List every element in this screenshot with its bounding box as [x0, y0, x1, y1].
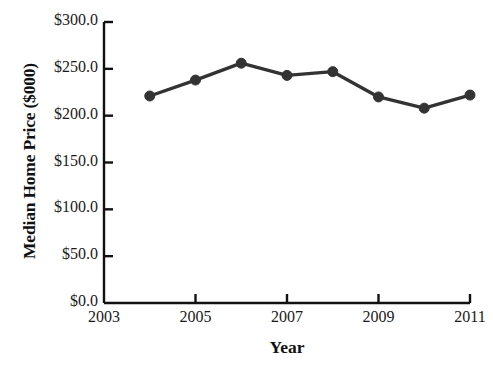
x-axis-tick-label: 2003	[69, 308, 139, 326]
x-axis-tick-label: 2009	[344, 308, 414, 326]
x-axis-tick-label: 2011	[435, 308, 493, 326]
data-point-marker	[465, 90, 475, 100]
axis-lines	[104, 22, 470, 303]
y-axis-ticks	[104, 22, 113, 256]
series-markers	[145, 58, 475, 113]
data-point-marker	[282, 70, 292, 80]
data-point-marker	[374, 92, 384, 102]
series-line	[150, 63, 470, 108]
data-point-marker	[419, 103, 429, 113]
series-polyline	[150, 63, 470, 108]
x-axis-tick-label: 2007	[252, 308, 322, 326]
data-point-marker	[191, 75, 201, 85]
data-point-marker	[236, 58, 246, 68]
data-point-marker	[145, 91, 155, 101]
line-chart: Median Home Price ($000) $0.0$50.0$100.0…	[0, 0, 493, 365]
x-axis-ticks	[196, 294, 471, 303]
data-point-marker	[328, 67, 338, 77]
x-axis-title: Year	[104, 337, 470, 358]
x-axis-tick-label: 2005	[161, 308, 231, 326]
